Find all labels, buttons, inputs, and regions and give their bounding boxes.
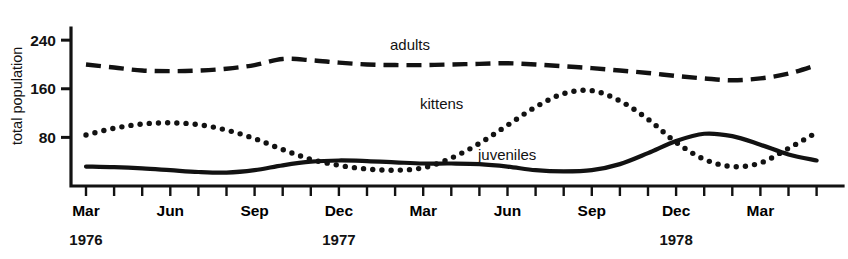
series-dot-kittens <box>147 121 152 126</box>
series-dot-kittens <box>646 117 651 122</box>
series-dot-kittens <box>246 134 251 139</box>
x-tick-label: Mar <box>72 202 100 219</box>
series-dot-kittens <box>289 150 294 155</box>
series-dot-kittens <box>752 162 757 167</box>
series-dot-kittens <box>434 161 439 166</box>
series-dot-kittens <box>801 137 806 142</box>
series-dot-kittens <box>623 102 628 107</box>
series-dot-kittens <box>156 120 161 125</box>
series-dot-kittens <box>724 163 729 168</box>
series-dot-kittens <box>715 161 720 166</box>
series-line-juveniles <box>86 134 817 173</box>
series-annotations: adultskittensjuveniles <box>390 36 536 163</box>
x-tick-label: Jun <box>494 202 522 219</box>
y-axis-tick-labels: 80160240 <box>30 32 56 146</box>
y-axis-title: total population <box>9 47 25 145</box>
series-dot-kittens <box>425 164 430 169</box>
series-dot-kittens <box>675 140 680 145</box>
y-tick-label: 160 <box>30 80 56 97</box>
series-dot-kittens <box>537 102 542 107</box>
series-dot-kittens <box>379 167 384 172</box>
series-dot-kittens <box>83 132 88 137</box>
x-tick-label: Sep <box>578 202 606 219</box>
series-label-kittens: kittens <box>420 95 463 112</box>
series-dot-kittens <box>653 123 658 128</box>
series-dot-kittens <box>580 88 585 93</box>
series-dot-kittens <box>192 122 197 127</box>
y-tick-label: 240 <box>30 32 56 49</box>
series-dot-kittens <box>255 137 260 142</box>
series-dot-kittens <box>110 126 115 131</box>
series-dot-kittens <box>220 126 225 131</box>
series-line-adults <box>86 59 817 81</box>
series-dot-kittens <box>237 131 242 136</box>
y-axis-title-group: total population <box>9 47 25 145</box>
series-dot-kittens <box>491 132 496 137</box>
series-dot-kittens <box>506 122 511 127</box>
series-dot-kittens <box>451 154 456 159</box>
series-dot-kittens <box>398 167 403 172</box>
y-tick-label: 80 <box>39 129 56 146</box>
series-dot-kittens <box>467 146 472 151</box>
series-dot-kittens <box>229 129 234 134</box>
series-dot-kittens <box>498 127 503 132</box>
series-dot-kittens <box>793 142 798 147</box>
series-dot-kittens <box>682 146 687 151</box>
series-dot-kittens <box>165 120 170 125</box>
series-dot-kittens <box>324 160 329 165</box>
series-dot-kittens <box>307 156 312 161</box>
series-dot-kittens <box>545 98 550 103</box>
chart-figure: total population 80160240 MarJunSepDecMa… <box>0 0 848 259</box>
series-dot-kittens <box>769 155 774 160</box>
series-dot-kittens <box>137 122 142 127</box>
series-dot-kittens <box>743 164 748 169</box>
series-dot-kittens <box>514 117 519 122</box>
series-dot-kittens <box>761 159 766 164</box>
series-dot-kittens <box>667 135 672 140</box>
series-dot-kittens <box>101 128 106 133</box>
series-dot-kittens <box>571 89 576 94</box>
series-dot-kittens <box>690 151 695 156</box>
x-tick-label: Jun <box>157 202 185 219</box>
series-dot-kittens <box>92 130 97 135</box>
series-dot-kittens <box>529 106 534 111</box>
series-dot-kittens <box>554 94 559 99</box>
series-dot-kittens <box>562 91 567 96</box>
x-axis-year-label: 1978 <box>659 231 692 248</box>
series-label-juveniles: juveniles <box>477 146 536 163</box>
series-dot-kittens <box>388 168 393 173</box>
series-dot-kittens <box>734 164 739 169</box>
series-dot-kittens <box>809 133 814 138</box>
series-dot-kittens <box>660 129 665 134</box>
x-axis-year-label: 1977 <box>322 231 355 248</box>
x-axis-tick-labels: MarJunSepDecMarJunSepDecMar <box>72 202 774 219</box>
x-tick-label: Sep <box>240 202 268 219</box>
series-dot-kittens <box>639 112 644 117</box>
series-dot-kittens <box>298 153 303 158</box>
series-dot-kittens <box>785 146 790 151</box>
x-tick-label: Mar <box>747 202 775 219</box>
x-axis-year-label: 1976 <box>69 231 102 248</box>
series-dot-kittens <box>707 159 712 164</box>
series-dot-kittens <box>483 137 488 142</box>
series-dot-kittens <box>521 111 526 116</box>
series-dot-kittens <box>281 147 286 152</box>
series-dot-kittens <box>272 144 277 149</box>
series-dot-kittens <box>607 93 612 98</box>
series-dot-kittens <box>183 121 188 126</box>
series-dot-kittens <box>777 151 782 156</box>
series-dot-kittens <box>211 124 216 129</box>
series-dot-kittens <box>263 140 268 145</box>
series-label-adults: adults <box>390 36 430 53</box>
x-axis-year-labels: 197619771978 <box>69 231 692 248</box>
series-dot-kittens <box>128 123 133 128</box>
series-dot-kittens <box>316 158 321 163</box>
series-dot-kittens <box>343 164 348 169</box>
series-dot-kittens <box>590 88 595 93</box>
x-tick-label: Mar <box>409 202 437 219</box>
series-dot-kittens <box>416 166 421 171</box>
series-dot-kittens <box>459 150 464 155</box>
series-dot-kittens <box>361 166 366 171</box>
series-dot-kittens <box>442 158 447 163</box>
series-dot-kittens <box>202 123 207 128</box>
